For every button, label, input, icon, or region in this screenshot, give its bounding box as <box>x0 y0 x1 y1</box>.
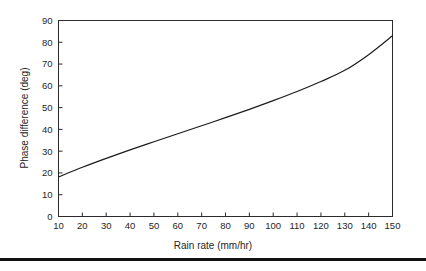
y-axis-title: Phase difference (deg) <box>19 68 30 169</box>
figure-container: 102030405060708090100110120130140150 010… <box>0 0 426 271</box>
y-tick-label: 70 <box>42 58 53 69</box>
y-tick-label: 50 <box>42 102 53 113</box>
x-tick-label: 50 <box>149 220 160 231</box>
x-tick-label: 110 <box>289 220 304 231</box>
x-tick-label: 150 <box>385 220 401 231</box>
y-tick-label: 30 <box>42 146 53 157</box>
x-tick-label: 100 <box>265 220 281 231</box>
x-tick-label: 30 <box>101 220 112 231</box>
x-tick-label: 40 <box>125 220 136 231</box>
phase-difference-line-chart: 102030405060708090100110120130140150 010… <box>0 0 426 271</box>
x-axis-tick-labels: 102030405060708090100110120130140150 <box>53 220 400 231</box>
y-tick-label: 40 <box>42 124 53 135</box>
x-tick-label: 130 <box>337 220 353 231</box>
y-tick-label: 90 <box>42 15 53 26</box>
x-tick-label: 120 <box>313 220 329 231</box>
y-tick-label: 80 <box>42 37 53 48</box>
y-tick-label: 10 <box>42 189 53 200</box>
x-tick-label: 10 <box>53 220 64 231</box>
x-tick-label: 70 <box>196 220 207 231</box>
y-tick-label: 0 <box>47 211 52 222</box>
x-axis-title: Rain rate (mm/hr) <box>174 240 252 251</box>
page-separator-rule <box>0 258 426 261</box>
y-tick-label: 20 <box>42 167 53 178</box>
x-tick-label: 140 <box>361 220 377 231</box>
y-tick-label: 60 <box>42 80 53 91</box>
x-tick-label: 90 <box>244 220 255 231</box>
x-tick-label: 20 <box>77 220 88 231</box>
x-tick-label: 80 <box>220 220 231 231</box>
x-tick-label: 60 <box>172 220 183 231</box>
